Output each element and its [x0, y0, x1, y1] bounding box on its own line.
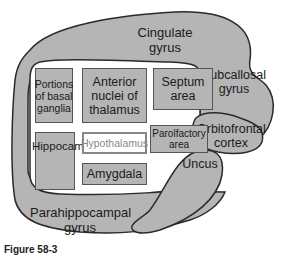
amygdala-box: Amygdala — [82, 163, 147, 185]
parolfactory-box: Parolfactory area — [150, 125, 208, 153]
basal-ganglia-box: Portions of basal ganglia — [35, 68, 73, 123]
parahippocampal-gyrus-label: Parahippocampal gyrus — [30, 205, 130, 235]
septum-label: Septum area — [154, 75, 212, 103]
septum-box: Septum area — [153, 68, 213, 110]
anterior-nuclei-box: Anterior nuclei of thalamus — [82, 68, 147, 123]
cingulate-gyrus-label: Cingulate gyrus — [130, 25, 200, 55]
hypothalamus-label: Hypothalamus — [81, 137, 148, 149]
basal-ganglia-label: Portions of basal ganglia — [35, 78, 74, 114]
uncus-label: Uncus — [180, 158, 220, 171]
parolfactory-label: Parolfactory area — [151, 128, 207, 150]
anterior-nuclei-label: Anterior nuclei of thalamus — [83, 75, 146, 117]
hypothalamus-box: Hypothalamus — [82, 132, 147, 154]
amygdala-label: Amygdala — [87, 167, 143, 181]
figure-caption: Figure 58-3 — [4, 244, 57, 255]
